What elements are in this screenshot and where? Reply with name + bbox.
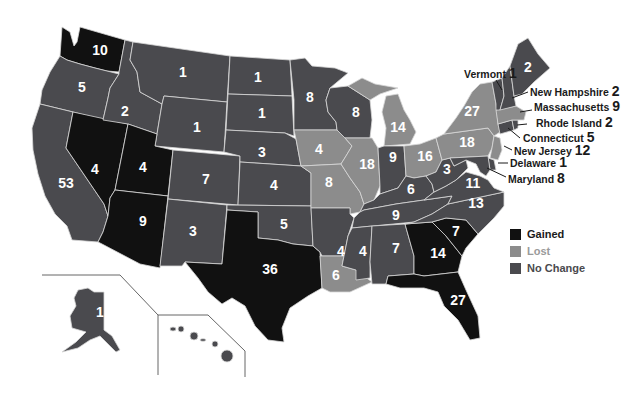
legend-item-lost: Lost	[510, 243, 585, 259]
seat-label-pa: 18	[459, 134, 475, 150]
seat-label-nv: 4	[91, 161, 99, 177]
seat-label-co: 7	[202, 171, 210, 187]
state-fl[interactable]	[386, 272, 480, 340]
seat-label-nm: 3	[189, 223, 197, 239]
seat-label-mo: 8	[325, 174, 333, 190]
label-delaware: Delaware1	[510, 154, 567, 170]
label-new-hampshire: New Hampshire2	[530, 83, 620, 99]
seat-label-ar: 4	[337, 243, 345, 259]
svg-text:New Hampshire2: New Hampshire2	[530, 83, 620, 99]
seat-label-tx: 36	[262, 261, 278, 277]
seat-label-ut: 4	[139, 159, 147, 175]
state-wy[interactable]	[155, 96, 227, 152]
label-new-jersey: New Jersey12	[514, 142, 591, 158]
seat-label-wv: 3	[443, 161, 451, 177]
svg-text:Maryland8: Maryland8	[508, 170, 565, 186]
seat-label-or: 5	[78, 79, 86, 95]
seat-label-ca: 53	[58, 175, 74, 191]
label-vermont: Vermont1	[464, 65, 517, 81]
inset-border-hawaii	[158, 315, 245, 377]
seat-label-in: 9	[389, 149, 397, 165]
svg-text:Massachusetts9: Massachusetts9	[534, 98, 620, 114]
legend-label-no-change: No Change	[527, 262, 585, 274]
seat-label-sd: 1	[258, 105, 266, 121]
svg-text:Vermont1: Vermont1	[464, 65, 517, 81]
swatch-no-change	[510, 263, 521, 274]
seat-label-ok: 5	[280, 216, 288, 232]
seat-label-hi: 2	[192, 343, 200, 359]
seat-label-tn: 9	[392, 207, 400, 223]
seat-label-sc: 7	[452, 223, 460, 239]
seat-label-ga: 14	[430, 245, 446, 261]
label-rhode-island: Rhode Island2	[536, 114, 613, 130]
seat-label-fl: 27	[450, 292, 466, 308]
seat-label-oh: 16	[417, 148, 433, 164]
seat-label-mn: 8	[306, 89, 314, 105]
svg-text:Rhode Island2: Rhode Island2	[536, 114, 613, 130]
seat-label-mi: 14	[390, 119, 406, 135]
seat-label-wy: 1	[193, 119, 201, 135]
seat-label-ne: 3	[258, 144, 266, 160]
seat-label-nc: 13	[468, 195, 484, 211]
seat-label-ky: 6	[407, 181, 415, 197]
swatch-lost	[510, 246, 521, 257]
legend-item-no-change: No Change	[510, 260, 585, 276]
label-massachusetts: Massachusetts9	[534, 98, 620, 114]
seat-label-wi: 8	[352, 104, 360, 120]
legend-label-lost: Lost	[527, 245, 550, 257]
seat-label-al: 7	[392, 240, 400, 256]
legend-label-gained: Gained	[527, 228, 564, 240]
seat-label-ak: 1	[96, 304, 104, 320]
us-house-seats-map: 1055342114973113453684846818149166947142…	[0, 0, 642, 398]
seat-label-ms: 4	[359, 243, 367, 259]
seat-label-ia: 4	[315, 141, 323, 157]
seat-label-il: 18	[359, 156, 375, 172]
seat-label-mt: 1	[179, 64, 187, 80]
seat-label-id: 2	[121, 103, 129, 119]
svg-text:Delaware1: Delaware1	[510, 154, 567, 170]
seat-label-az: 9	[139, 213, 147, 229]
seat-label-va: 11	[466, 175, 481, 191]
seat-label-ny: 27	[464, 103, 480, 119]
state-hi[interactable]	[170, 326, 233, 362]
seat-label-la: 6	[332, 267, 340, 283]
svg-text:New Jersey12: New Jersey12	[514, 142, 591, 158]
swatch-gained	[510, 229, 521, 240]
legend: Gained Lost No Change	[510, 226, 585, 277]
state-ak[interactable]	[62, 288, 120, 352]
seat-label-me: 2	[524, 59, 532, 75]
seat-label-wa: 10	[92, 42, 108, 58]
label-maryland: Maryland8	[508, 170, 565, 186]
seat-label-ks: 4	[270, 177, 278, 193]
legend-item-gained: Gained	[510, 226, 585, 242]
seat-label-nd: 1	[254, 69, 262, 85]
